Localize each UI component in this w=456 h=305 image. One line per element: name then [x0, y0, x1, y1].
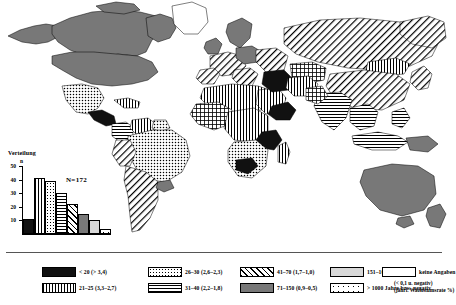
- region-united-states: [52, 52, 158, 86]
- legend-label-31-40: 31–40 (2,2–1,8): [185, 285, 222, 291]
- region-iberia: [196, 68, 220, 84]
- legend-note-line2: (jährl. Wachstumsrate %): [394, 287, 454, 294]
- chart-bar-41-70: [67, 204, 78, 234]
- chart-bar-31-40: [56, 193, 67, 234]
- legend-note-line1: (< 0,1 u. negativ): [394, 280, 454, 287]
- legend-item-keine: keine Angaben: [382, 266, 456, 277]
- region-canada: [52, 10, 164, 58]
- region-madagascar: [278, 142, 290, 164]
- legend-swatch-lt20: [42, 267, 76, 277]
- chart-y-tick-label: 30: [4, 190, 16, 196]
- region-uk-ireland: [204, 38, 222, 54]
- region-caribbean: [114, 98, 140, 108]
- chart-bar--1000: [100, 229, 111, 234]
- chart-bar-21-25: [34, 178, 45, 234]
- region-eastern-europe: [256, 48, 288, 72]
- region-scandinavia: [226, 18, 252, 48]
- legend-item-41-70: 41–70 (1,7–1,0): [240, 266, 314, 277]
- legend-swatch-keine: [382, 267, 416, 277]
- chart-bars: [23, 166, 111, 234]
- legend-swatch-gt1000: [330, 283, 364, 293]
- chart-plot-area: [23, 166, 111, 234]
- chart-y-tick: [19, 220, 22, 221]
- legend-swatch-21-25: [42, 283, 76, 293]
- chart-y-tick: [19, 207, 22, 208]
- legend-item-31-40: 31–40 (2,2–1,8): [148, 282, 222, 293]
- region-greenland: [172, 2, 208, 34]
- chart-bar-71-150: [78, 214, 89, 234]
- region-tasmania: [396, 216, 414, 228]
- region-central-america: [88, 110, 116, 126]
- chart-y-tick: [19, 193, 22, 194]
- chart-y-tick-label: 50: [4, 163, 16, 169]
- legend-item-26-30: 26–30 (2,6–2,3): [148, 266, 222, 277]
- legend-item-lt20: < 20 (> 3,4): [42, 266, 107, 277]
- legend-swatch-26-30: [148, 267, 182, 277]
- chart-y-tick: [19, 180, 22, 181]
- legend-note: (< 0,1 u. negativ) (jährl. Wachstumsrate…: [394, 280, 454, 294]
- chart-bar-26-30: [45, 181, 56, 234]
- legend-label-lt20: < 20 (> 3,4): [79, 269, 107, 275]
- world-map: Verteilung n N=172 1020304050: [0, 0, 448, 248]
- legend-label-41-70: 41–70 (1,7–1,0): [277, 269, 314, 275]
- region-indonesia: [352, 132, 408, 150]
- legend-swatch-41-70: [240, 267, 274, 277]
- region-mexico: [62, 84, 104, 114]
- legend-item-21-25: 21–25 (3,3–2,7): [42, 282, 116, 293]
- region-korea-japan: [410, 66, 432, 90]
- legend-item-71-150: 71–150 (0,9–0,5): [240, 282, 317, 293]
- chart-bar--20: [23, 219, 34, 234]
- legend-divider: [6, 252, 442, 253]
- chart-y-tick: [19, 166, 22, 167]
- region-australia: [360, 164, 436, 216]
- legend-swatch-31-40: [148, 283, 182, 293]
- region-new-guinea: [406, 136, 438, 152]
- legend-label-keine: keine Angaben: [419, 269, 456, 275]
- chart-bar-151-1000: [89, 220, 100, 234]
- legend-swatch-151-1000: [330, 267, 364, 277]
- legend-label-21-25: 21–25 (3,3–2,7): [79, 285, 116, 291]
- region-italy-balkans: [232, 68, 258, 86]
- chart-y-tick-label: 10: [4, 217, 16, 223]
- region-new-zealand: [426, 204, 446, 228]
- legend-label-71-150: 71–150 (0,9–0,5): [277, 285, 317, 291]
- chart-y-tick-label: 20: [4, 204, 16, 210]
- legend-swatch-71-150: [240, 283, 274, 293]
- chart-x-axis: [22, 234, 111, 235]
- legend-label-26-30: 26–30 (2,6–2,3): [185, 269, 222, 275]
- chart-title: Verteilung: [8, 150, 36, 156]
- region-philippines: [392, 108, 410, 128]
- region-uruguay: [156, 180, 174, 192]
- chart-y-axis-label: n: [20, 158, 23, 164]
- map-legend: < 20 (> 3,4)21–25 (3,3–2,7)26–30 (2,6–2,…: [0, 252, 448, 305]
- chart-y-tick-label: 40: [4, 177, 16, 183]
- distribution-chart: Verteilung n N=172 1020304050: [4, 150, 116, 246]
